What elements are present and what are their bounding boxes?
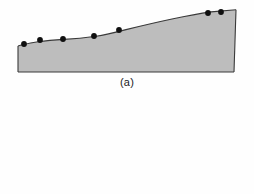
- data-point: [21, 41, 27, 47]
- panel-b-plot: [0, 94, 254, 194]
- data-point: [116, 27, 122, 33]
- figure-panel-a: (a): [0, 0, 254, 94]
- data-point: [60, 36, 66, 42]
- figure-panel-b: (b): [0, 94, 254, 194]
- data-point: [218, 9, 224, 15]
- panel-a-area-group: [18, 10, 236, 72]
- data-point: [91, 33, 97, 39]
- data-point: [205, 10, 211, 16]
- panel-a-caption: (a): [0, 76, 254, 88]
- panel-a-filled-area: [18, 10, 236, 72]
- data-point: [37, 37, 43, 43]
- figure-root: (a): [0, 0, 254, 194]
